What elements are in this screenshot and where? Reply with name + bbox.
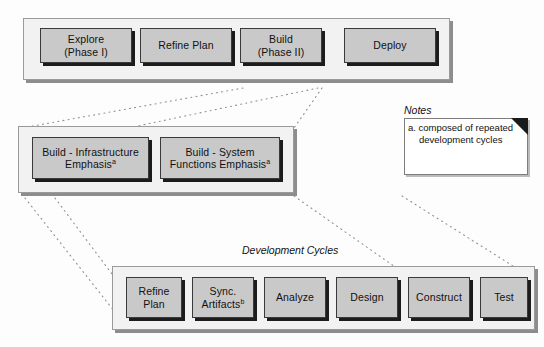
cycle-box-sync-artifacts-superscript: b [240,297,244,304]
phase-box-deploy[interactable]: Deploy [344,28,436,63]
phase-box-explore-line2: (Phase I) [64,46,108,58]
cycle-box-design[interactable]: Design [336,277,398,318]
connector-build-right-edge [294,88,322,128]
connector-build-to-sysfunctions [128,88,318,128]
diagram-canvas: Explore (Phase I) Refine Plan Build (Pha… [0,0,544,347]
phase-box-build-line2: (Phase II) [258,46,305,58]
phase-box-deploy-line1: Deploy [373,39,406,51]
build-box-system-functions-line1: Build - System [185,146,254,158]
build-box-infrastructure-superscript: a [112,158,116,165]
cycle-box-construct[interactable]: Construct [408,277,470,318]
cycle-box-sync-artifacts-line1: Sync. [210,285,237,297]
build-box-system-functions[interactable]: Build - System Functions Emphasisa [160,137,280,179]
phase-box-refine-plan[interactable]: Refine Plan [140,28,232,63]
cycle-box-sync-artifacts-line2: Artifacts [202,298,241,310]
cycle-box-refine-plan[interactable]: Refine Plan [126,277,182,318]
notes-title: Notes [404,104,431,116]
cycle-box-design-line1: Design [350,291,383,303]
cycle-box-refine-plan-line1: Refine [139,285,170,297]
phase-box-explore[interactable]: Explore (Phase I) [40,28,132,63]
cycle-box-construct-line1: Construct [416,291,462,303]
cycle-box-sync-artifacts[interactable]: Sync. Artifactsb [192,277,254,318]
build-box-system-functions-line2: Functions Emphasis [170,158,266,170]
cycle-box-analyze-line1: Analyze [276,291,314,303]
cycle-box-test-line1: Test [494,291,514,303]
phase-box-build-line1: Build [269,33,293,45]
connector-infra-to-cycles-left [25,198,118,316]
notes-item: a. composed of repeated development cycl… [408,122,528,146]
development-cycles-caption: Development Cycles [242,244,338,256]
connector-sysfunc-to-cycles-a [294,196,408,276]
cycle-box-analyze[interactable]: Analyze [264,277,326,318]
phase-box-explore-line1: Explore [68,33,104,45]
cycle-box-test[interactable]: Test [480,277,528,318]
connector-build-to-infrastructure [22,88,243,128]
cycle-box-refine-plan-line2: Plan [143,298,164,310]
build-box-system-functions-superscript: a [266,158,270,165]
notes-body: a. composed of repeated development cycl… [408,122,528,146]
build-box-infrastructure-line1: Build - Infrastructure [42,146,139,158]
phase-box-refine-plan-line1: Refine Plan [158,39,213,51]
phase-box-build[interactable]: Build (Phase II) [240,28,322,63]
build-box-infrastructure-line2: Emphasis [65,158,112,170]
build-box-infrastructure[interactable]: Build - Infrastructure Emphasisa [32,137,149,179]
